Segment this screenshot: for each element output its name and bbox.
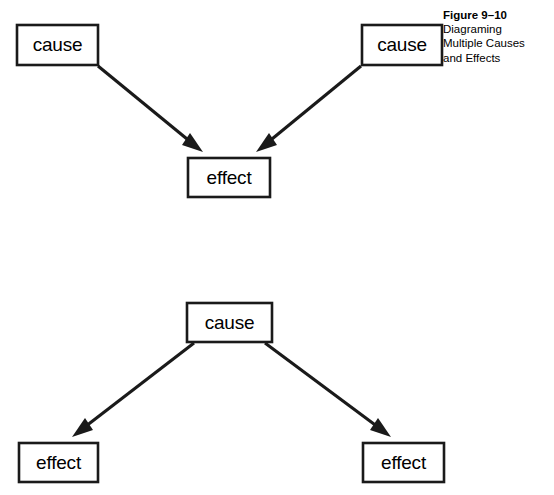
edge-cause-to-effect-left (72, 343, 194, 437)
diagram-multiple-causes: cause cause effect (17, 25, 442, 197)
node-label: effect (381, 452, 427, 473)
edge-line (77, 343, 194, 433)
edge-line (261, 66, 361, 148)
node-label: cause (377, 34, 427, 55)
figure-caption-line: Diagraming (443, 22, 551, 36)
arrow-head-icon (370, 418, 391, 437)
diagram-canvas: cause cause effect cause (0, 0, 554, 495)
node-effect-left: effect (19, 443, 98, 482)
arrow-head-icon (72, 418, 93, 437)
edge-line (265, 343, 386, 433)
node-label: effect (36, 452, 82, 473)
edge-line (98, 66, 198, 148)
edge-cause-right-to-effect (256, 66, 361, 152)
figure-caption-title: Figure 9–10 (443, 8, 551, 22)
node-effect-top: effect (188, 158, 270, 197)
figure-caption-line: Multiple Causes (443, 36, 551, 50)
node-label: cause (205, 312, 255, 333)
node-cause-right: cause (362, 25, 442, 65)
diagram-multiple-effects: cause effect effect (19, 303, 444, 482)
node-cause-left: cause (17, 25, 98, 65)
figure-caption-line: and Effects (443, 51, 551, 65)
edge-cause-left-to-effect (98, 66, 203, 152)
node-effect-right: effect (363, 443, 444, 482)
figure-container: cause cause effect cause (0, 0, 554, 495)
node-label: cause (33, 34, 83, 55)
node-label: effect (207, 167, 253, 188)
edge-cause-to-effect-right (265, 343, 391, 437)
node-cause-center: cause (187, 303, 272, 342)
figure-caption: Figure 9–10 Diagraming Multiple Causes a… (443, 8, 551, 65)
